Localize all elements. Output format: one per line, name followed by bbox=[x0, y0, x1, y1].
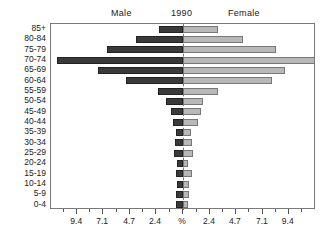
bar-female-0-4 bbox=[183, 201, 188, 208]
bar-female-50-54 bbox=[183, 98, 203, 105]
x-tick-0 bbox=[182, 209, 183, 214]
age-group-label-5-9: 5-9 bbox=[2, 188, 46, 198]
age-group-label-40-44: 40-44 bbox=[2, 116, 46, 126]
age-group-label-65-69: 65-69 bbox=[2, 64, 46, 74]
pyramid-row bbox=[51, 179, 316, 189]
x-minor-left-3.55 bbox=[142, 209, 143, 212]
x-minor-left-1.2 bbox=[169, 209, 170, 212]
bar-female-55-59 bbox=[183, 88, 218, 95]
pyramid-row bbox=[51, 55, 316, 65]
age-group-label-30-34: 30-34 bbox=[2, 137, 46, 147]
bar-male-70-74 bbox=[57, 57, 183, 64]
pyramid-row bbox=[51, 45, 316, 55]
pyramid-row bbox=[51, 127, 316, 137]
bar-female-10-14 bbox=[183, 181, 189, 188]
bar-female-70-74 bbox=[183, 57, 315, 64]
age-group-label-35-39: 35-39 bbox=[2, 126, 46, 136]
age-group-label-70-74: 70-74 bbox=[2, 54, 46, 64]
x-tick-left-7.1 bbox=[102, 209, 103, 214]
pyramid-row bbox=[51, 107, 316, 117]
age-group-label-20-24: 20-24 bbox=[2, 157, 46, 167]
x-axis-labels: 9.47.14.72.4%2.44.77.19.4 bbox=[0, 216, 334, 230]
x-tick-left-4.7 bbox=[129, 209, 130, 214]
age-group-label-10-14: 10-14 bbox=[2, 178, 46, 188]
bar-female-25-29 bbox=[183, 150, 193, 157]
x-minor-right-1.2 bbox=[196, 209, 197, 212]
bar-female-85+ bbox=[183, 26, 218, 33]
x-tick-right-9.4 bbox=[288, 209, 289, 214]
x-minor-left-8.25 bbox=[89, 209, 90, 212]
pyramid-row bbox=[51, 169, 316, 179]
age-group-label-15-19: 15-19 bbox=[2, 168, 46, 178]
age-group-label-60-64: 60-64 bbox=[2, 75, 46, 85]
bar-male-40-44 bbox=[173, 119, 183, 126]
bar-male-60-64 bbox=[126, 77, 183, 84]
x-minor-left-10.6 bbox=[63, 209, 64, 212]
x-axis-label-1: 7.1 bbox=[87, 216, 117, 226]
bar-male-5-9 bbox=[176, 191, 183, 198]
x-axis-label-3: 2.4 bbox=[140, 216, 170, 226]
bar-male-0-4 bbox=[176, 201, 183, 208]
pyramid-row bbox=[51, 117, 316, 127]
x-minor-right-3.55 bbox=[222, 209, 223, 212]
bar-male-15-19 bbox=[176, 170, 183, 177]
pyramid-row bbox=[51, 148, 316, 158]
bar-male-80-84 bbox=[136, 36, 183, 43]
chart-title-year: 1990 bbox=[171, 8, 192, 18]
pyramid-row bbox=[51, 65, 316, 75]
age-group-label-0-4: 0-4 bbox=[2, 199, 46, 209]
bar-male-50-54 bbox=[166, 98, 183, 105]
x-tick-left-9.4 bbox=[76, 209, 77, 214]
age-group-label-75-79: 75-79 bbox=[2, 44, 46, 54]
age-axis: 85+80-8475-7970-7465-6960-6455-5950-5445… bbox=[0, 23, 46, 209]
bar-female-75-79 bbox=[183, 46, 276, 53]
x-axis-label-8: 9.4 bbox=[273, 216, 303, 226]
x-tick-right-7.1 bbox=[262, 209, 263, 214]
x-axis-ticks bbox=[50, 209, 315, 215]
legend-label-male: Male bbox=[111, 8, 132, 18]
bar-female-5-9 bbox=[183, 191, 189, 198]
population-pyramid-chart: Male 1990 Female 85+80-8475-7970-7465-69… bbox=[0, 0, 334, 241]
pyramid-row bbox=[51, 86, 316, 96]
bar-female-60-64 bbox=[183, 77, 272, 84]
x-minor-right-5.9 bbox=[248, 209, 249, 212]
age-group-label-25-29: 25-29 bbox=[2, 147, 46, 157]
bar-female-30-34 bbox=[183, 139, 192, 146]
bar-female-65-69 bbox=[183, 67, 285, 74]
x-minor-right-8.25 bbox=[275, 209, 276, 212]
age-group-label-85+: 85+ bbox=[2, 23, 46, 33]
pyramid-row bbox=[51, 158, 316, 168]
bar-male-55-59 bbox=[158, 88, 183, 95]
age-group-label-80-84: 80-84 bbox=[2, 33, 46, 43]
pyramid-row bbox=[51, 189, 316, 199]
plot-area bbox=[50, 23, 315, 209]
bar-female-15-19 bbox=[183, 170, 192, 177]
bar-male-65-69 bbox=[98, 67, 184, 74]
age-group-label-50-54: 50-54 bbox=[2, 95, 46, 105]
x-minor-right-10.6 bbox=[301, 209, 302, 212]
x-tick-right-4.7 bbox=[235, 209, 236, 214]
age-group-label-45-49: 45-49 bbox=[2, 106, 46, 116]
bar-female-80-84 bbox=[183, 36, 243, 43]
x-minor-left-5.9 bbox=[116, 209, 117, 212]
x-axis-label-4: % bbox=[167, 216, 197, 226]
bar-female-40-44 bbox=[183, 119, 198, 126]
bar-male-85+ bbox=[159, 26, 183, 33]
age-group-label-55-59: 55-59 bbox=[2, 85, 46, 95]
pyramid-row bbox=[51, 138, 316, 148]
pyramid-row bbox=[51, 34, 316, 44]
bar-male-35-39 bbox=[176, 129, 183, 136]
pyramid-row bbox=[51, 76, 316, 86]
bar-female-45-49 bbox=[183, 108, 201, 115]
bar-male-45-49 bbox=[171, 108, 183, 115]
bar-female-20-24 bbox=[183, 160, 188, 167]
bar-female-35-39 bbox=[183, 129, 191, 136]
pyramid-row bbox=[51, 24, 316, 34]
bar-male-25-29 bbox=[174, 150, 183, 157]
x-tick-right-2.4 bbox=[209, 209, 210, 214]
bar-male-30-34 bbox=[175, 139, 183, 146]
bar-male-75-79 bbox=[107, 46, 184, 53]
legend-label-female: Female bbox=[228, 8, 260, 18]
pyramid-row bbox=[51, 96, 316, 106]
x-tick-left-2.4 bbox=[155, 209, 156, 214]
